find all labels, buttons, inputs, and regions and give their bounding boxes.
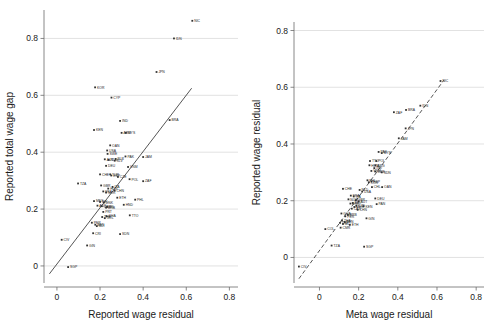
- y-tick-label: 0: [33, 261, 38, 271]
- data-point: [367, 181, 369, 183]
- data-point-label: AUT: [360, 200, 367, 204]
- data-point: [99, 201, 101, 203]
- data-point: [374, 171, 376, 173]
- data-point: [350, 208, 352, 210]
- x-tick-label: 0.2: [94, 292, 106, 302]
- data-point-label: NOR: [108, 191, 116, 195]
- data-point-label: TTO: [132, 214, 139, 218]
- data-point: [297, 266, 299, 268]
- data-point-label: SDN: [383, 171, 391, 175]
- data-point: [358, 189, 360, 191]
- data-point: [375, 203, 377, 205]
- data-point: [110, 175, 112, 177]
- data-point-label: CHL: [373, 185, 380, 189]
- data-point: [380, 152, 382, 154]
- data-point: [365, 217, 367, 219]
- data-point: [377, 151, 379, 153]
- data-point-label: DEU: [377, 197, 385, 201]
- data-point-label: TZA: [333, 244, 340, 248]
- data-point: [101, 205, 103, 207]
- scatter-figure: 00.20.40.60.800.20.40.60.8NICIDNJPNKORCY…: [0, 0, 487, 328]
- x-tick-label: 0.8: [470, 292, 482, 302]
- data-point-label: BRA: [407, 108, 415, 112]
- y-axis-title: Reported total wage gap: [4, 92, 15, 201]
- data-point: [142, 180, 144, 182]
- data-point-label: SWE: [109, 152, 117, 156]
- data-point-label: NIC: [194, 19, 200, 23]
- data-point-label: HND: [126, 203, 134, 207]
- data-point-label: JPN: [407, 127, 414, 131]
- data-point-label: CHN: [117, 189, 125, 193]
- data-point: [107, 153, 109, 155]
- data-point: [339, 222, 341, 224]
- data-point: [404, 127, 406, 129]
- data-point-label: KOR: [97, 86, 105, 90]
- data-point: [129, 214, 131, 216]
- data-point-label: NIC: [442, 79, 448, 83]
- data-point: [134, 199, 136, 201]
- data-point-label: IDN: [422, 104, 428, 108]
- data-point: [142, 156, 144, 158]
- data-point: [340, 213, 342, 215]
- y-tick-label: 0.6: [26, 90, 38, 100]
- data-point: [169, 119, 171, 121]
- data-point-label: KEN: [96, 128, 104, 132]
- data-point-label: CMR: [342, 226, 350, 230]
- y-tick-label: 0.4: [276, 139, 288, 149]
- data-point: [119, 120, 121, 122]
- data-point-label: PAN: [378, 202, 385, 206]
- data-point: [119, 233, 121, 235]
- data-point: [127, 166, 129, 168]
- data-point-label: BRA: [172, 118, 180, 122]
- data-point: [173, 38, 175, 40]
- data-point-label: IDN: [176, 37, 182, 41]
- data-point-label: ETH: [351, 223, 358, 227]
- data-point: [342, 223, 344, 225]
- data-point-label: TZA: [80, 182, 87, 186]
- data-point: [105, 207, 107, 209]
- data-point: [86, 245, 88, 247]
- data-point-label: JPN: [158, 70, 165, 74]
- data-point-label: JAM: [400, 137, 407, 141]
- data-point: [356, 209, 358, 211]
- x-axis-title: Reported wage residual: [88, 309, 194, 320]
- data-point: [374, 198, 376, 200]
- data-point-label: SGP: [70, 265, 78, 269]
- y-tick-label: 0.2: [26, 204, 38, 214]
- y-axis-title: Reported wage residual: [251, 100, 262, 206]
- x-tick-label: 0.4: [391, 292, 403, 302]
- data-point: [349, 203, 351, 205]
- data-point: [77, 183, 79, 185]
- data-point-label: PAK: [127, 155, 134, 159]
- data-point: [349, 195, 351, 197]
- data-point-label: CHE: [344, 187, 352, 191]
- data-point: [191, 20, 193, 22]
- data-point-label: ZAF: [145, 179, 151, 183]
- data-point: [114, 160, 116, 162]
- data-point: [109, 144, 111, 146]
- data-point: [129, 178, 131, 180]
- x-tick-label: 0.4: [137, 292, 149, 302]
- data-point: [439, 80, 441, 82]
- data-point-label: CZE: [120, 175, 128, 179]
- y-tick-label: 0.8: [26, 33, 38, 43]
- data-point-label: ETH: [119, 196, 126, 200]
- data-point: [330, 245, 332, 247]
- data-point: [61, 239, 63, 241]
- data-point-label: MYS: [383, 151, 391, 155]
- data-point: [405, 109, 407, 111]
- data-point-label: GIN: [89, 244, 96, 248]
- data-point: [342, 188, 344, 190]
- x-tick-label: 0: [55, 292, 60, 302]
- x-axis-title: Meta wage residual: [345, 309, 432, 320]
- data-point-label: CRI: [95, 232, 101, 236]
- data-point: [366, 179, 368, 181]
- data-point: [369, 160, 371, 162]
- x-tick-label: 0.8: [223, 292, 235, 302]
- data-point-label: DEU: [108, 164, 116, 168]
- x-tick-label: 0.6: [180, 292, 192, 302]
- data-point: [67, 266, 69, 268]
- data-point: [370, 170, 372, 172]
- data-point-label: CHE: [102, 173, 110, 177]
- right-panel: 00.20.40.60.800.20.40.60.8NICIDNBRAZAFJP…: [244, 0, 487, 328]
